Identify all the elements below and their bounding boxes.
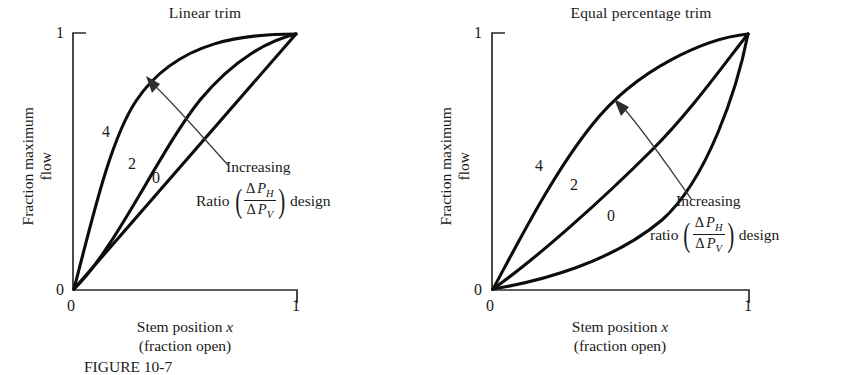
numerator-delta: Δ [695, 214, 704, 230]
x-axis-label-line2: (fraction open) [470, 337, 770, 356]
denominator-delta: Δ [695, 235, 704, 251]
annotation-ratio-word: Ratio [196, 192, 230, 209]
fraction-numerator: ΔPH [693, 215, 725, 235]
numerator-p: P [706, 214, 715, 230]
annotation-design-word: design [290, 192, 330, 209]
figure-caption: FIGURE 10-7 [84, 358, 172, 375]
x-tick-left: 0 [486, 298, 494, 314]
paren-open: ( [235, 188, 242, 215]
x-axis-label: Stem position x (fraction open) [470, 318, 770, 355]
y-tick-bottom: 0 [56, 282, 64, 298]
fraction-numerator: ΔPH [244, 181, 276, 201]
annotation-increasing-ratio: Increasing ratio ( ΔPH ΔPV ) design [650, 192, 779, 255]
curve-label-2: 2 [570, 177, 578, 193]
denominator-subscript: V [716, 243, 722, 254]
annotation-increasing-word: Increasing [226, 158, 331, 175]
figure-container: Linear trim 1 0 0 1 4 2 0 Fractio [0, 0, 844, 375]
denominator-p: P [707, 235, 716, 251]
curve-label-4: 4 [102, 124, 110, 140]
numerator-subscript: H [715, 222, 723, 233]
numerator-p: P [257, 180, 266, 196]
axis-lines [492, 33, 749, 303]
curve-label-4: 4 [535, 158, 543, 174]
curve-label-2: 2 [128, 156, 136, 172]
curve-label-0: 0 [607, 208, 615, 224]
y-axis-label: Fraction maximum flow [437, 81, 474, 251]
annotation-design-word: design [739, 226, 779, 243]
y-tick-top: 1 [56, 25, 64, 41]
annotation-ratio-word: ratio [650, 226, 678, 243]
y-axis-label-line1: Fraction maximum [19, 81, 37, 251]
numerator-delta: Δ [246, 180, 255, 196]
denominator-delta: Δ [247, 201, 256, 217]
paren-open: ( [684, 222, 691, 249]
annotation-increasing-ratio: Increasing Ratio ( ΔPH ΔPV ) design [196, 158, 331, 221]
x-axis-label-line1: Stem position x [35, 318, 335, 337]
y-tick-top: 1 [474, 25, 482, 41]
pressure-drop-ratio-fraction: ΔPH ΔPV [693, 215, 725, 255]
curve-label-0: 0 [152, 170, 160, 186]
denominator-p: P [258, 201, 267, 217]
x-axis-label: Stem position x (fraction open) [35, 318, 335, 355]
paren-close: ) [727, 222, 734, 249]
x-tick-right: 1 [292, 298, 300, 314]
increasing-direction-arrow [146, 76, 228, 165]
denominator-subscript: V [267, 209, 273, 220]
chart-panel-equal-percentage-trim: Equal percentage trim 1 0 0 1 4 2 0 [422, 0, 844, 375]
y-axis-label: Fraction maximum flow [19, 81, 56, 251]
y-axis-label-line2: flow [455, 81, 473, 251]
fraction-denominator: ΔPV [693, 235, 724, 254]
chart-panel-linear-trim: Linear trim 1 0 0 1 4 2 0 Fractio [0, 0, 422, 375]
y-tick-bottom: 0 [474, 282, 482, 298]
numerator-subscript: H [266, 188, 274, 199]
paren-close: ) [278, 188, 285, 215]
y-axis-label-line1: Fraction maximum [437, 81, 455, 251]
x-axis-label-variable: x [661, 318, 668, 335]
pressure-drop-ratio-fraction: ΔPH ΔPV [244, 181, 276, 221]
annotation-increasing-word: Increasing [676, 192, 779, 209]
x-axis-label-line1: Stem position x [470, 318, 770, 337]
x-tick-right: 1 [744, 298, 752, 314]
x-axis-label-variable: x [226, 318, 233, 335]
x-axis-label-line2: (fraction open) [35, 337, 335, 356]
fraction-denominator: ΔPV [245, 201, 276, 220]
x-tick-left: 0 [67, 298, 75, 314]
y-axis-label-line2: flow [37, 81, 55, 251]
x-axis-label-text: Stem position [572, 318, 662, 335]
x-axis-label-text: Stem position [137, 318, 227, 335]
